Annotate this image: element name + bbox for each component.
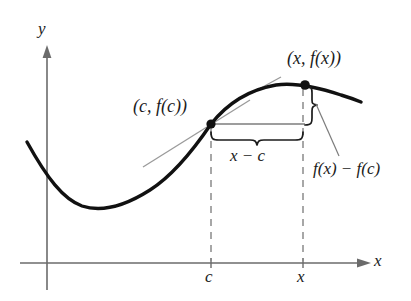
figure-canvas [0,0,411,301]
x-tick-label-c: c [205,268,213,285]
y-axis-label: y [38,20,46,37]
y-axis-arrowhead [43,45,52,58]
point-marker-c [206,119,215,128]
point-marker-x [300,80,310,90]
leader-line-rise-label [316,104,339,156]
x-axis [20,258,371,267]
calculus-difference-quotient-figure: y x (c, f(c)) (x, f(x)) x − c f(x) − f(c… [0,0,411,301]
drop-lines [211,89,303,261]
x-axis-label: x [374,252,382,269]
brace-rise [305,86,317,125]
brace-run [211,132,303,145]
run-annotation-label: x − c [230,147,265,164]
function-curve [27,84,361,208]
rise-annotation-label: f(x) − f(c) [313,160,380,177]
x-axis-arrowhead [357,258,371,267]
point-label-x: (x, f(x)) [287,49,341,67]
point-label-c: (c, f(c)) [133,97,187,115]
x-tick-label-x: x [297,268,305,285]
